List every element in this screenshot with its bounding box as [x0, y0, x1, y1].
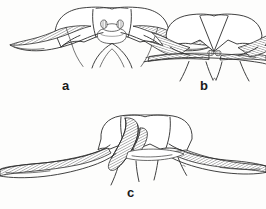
figure-plate — [0, 0, 266, 209]
figure-c — [0, 115, 266, 185]
figure-c-label: c — [127, 186, 134, 199]
figure-a-label: a — [62, 79, 69, 92]
figure-b-label: b — [200, 79, 208, 92]
